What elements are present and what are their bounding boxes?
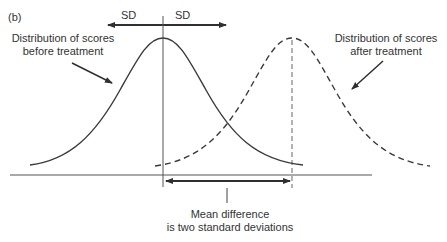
before-pointer-arrow <box>72 63 112 83</box>
sd-left-label: SD <box>121 9 136 22</box>
after-pointer-arrow <box>352 61 383 89</box>
after-label-line2: after treatment <box>330 45 442 58</box>
before-treatment-label: Distribution of scores before treatment <box>8 32 118 58</box>
mean-difference-line1: Mean difference <box>150 208 310 221</box>
mean-difference-label: Mean difference is two standard deviatio… <box>150 208 310 234</box>
after-treatment-label: Distribution of scores after treatment <box>330 32 442 58</box>
after-label-line1: Distribution of scores <box>330 32 442 45</box>
sd-right-label: SD <box>175 9 190 22</box>
panel-label: (b) <box>8 11 21 24</box>
before-label-line1: Distribution of scores <box>8 32 118 45</box>
mean-difference-line2: is two standard deviations <box>150 221 310 234</box>
before-label-line2: before treatment <box>8 45 118 58</box>
